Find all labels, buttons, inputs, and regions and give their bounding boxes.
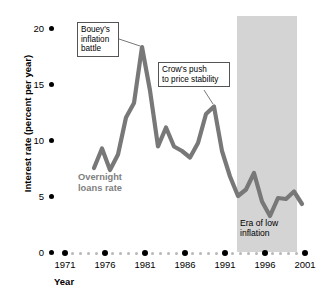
shaded-region-label-line-2: inflation	[240, 229, 298, 239]
annotation-crow-line-2: to price stability	[162, 75, 226, 85]
annotation-crow-price-stability: Crow's push to price stability	[158, 62, 230, 87]
annotation-bouey-line-2: inflation	[81, 35, 115, 45]
series-label-overnight-loans-rate: Overnight loans rate	[62, 172, 138, 193]
plot-area	[0, 0, 325, 299]
crow-callout-leader-line	[204, 90, 213, 104]
annotation-bouey-line-1: Bouey's	[81, 25, 115, 35]
annotation-bouey-inflation-battle: Bouey's inflation battle	[77, 22, 119, 57]
shaded-region-label: Era of low inflation	[240, 219, 298, 239]
bouey-callout-leader-line	[119, 39, 140, 46]
series-label-line-2: loans rate	[62, 183, 138, 194]
series-label-line-1: Overnight	[62, 172, 138, 183]
annotation-bouey-line-3: battle	[81, 44, 115, 54]
chart-figure: Interest rate (percent per year) 20 15 1…	[0, 0, 325, 299]
annotation-crow-line-1: Crow's push	[162, 65, 226, 75]
